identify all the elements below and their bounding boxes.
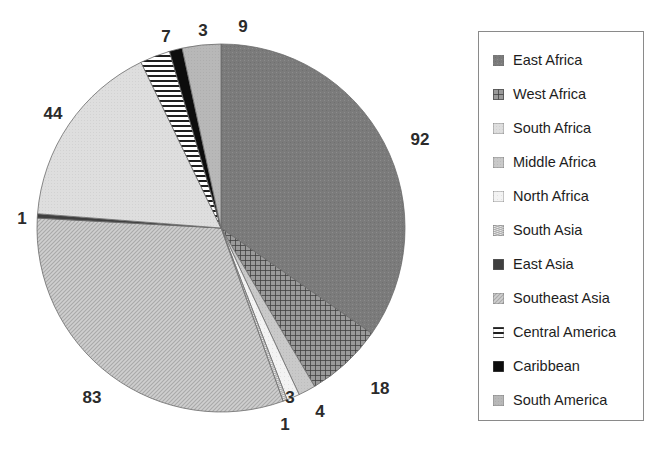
- legend-swatch-solid-black-icon: [493, 361, 504, 372]
- legend-item-label: South Africa: [513, 121, 591, 136]
- legend-item-south-america[interactable]: South America: [479, 383, 643, 417]
- legend-item-north-africa[interactable]: North Africa: [479, 179, 643, 213]
- pie-data-label: 4: [315, 402, 324, 422]
- legend-item-central-america[interactable]: Central America: [479, 315, 643, 349]
- pie-data-label: 3: [285, 388, 294, 408]
- legend-swatch-crosshatch-dark-icon: [493, 89, 504, 100]
- legend-item-label: Central America: [513, 325, 616, 340]
- legend-item-label: East Asia: [513, 257, 573, 272]
- legend-item-south-africa[interactable]: South Africa: [479, 111, 643, 145]
- pie-data-label: 18: [371, 379, 390, 399]
- legend-item-label: South Asia: [513, 223, 582, 238]
- legend-item-southeast-asia[interactable]: Southeast Asia: [479, 281, 643, 315]
- legend-swatch-fine-diagonal-icon: [493, 293, 504, 304]
- pie-data-label: 7: [161, 27, 170, 47]
- pie-data-label: 92: [411, 130, 430, 150]
- legend-item-label: South America: [513, 393, 607, 408]
- legend-swatch-solid-light-gray-icon: [493, 157, 504, 168]
- legend-item-west-africa[interactable]: West Africa: [479, 77, 643, 111]
- pie-data-label: 3: [198, 21, 207, 41]
- legend-swatch-pale-gray-icon: [493, 123, 504, 134]
- legend-swatch-mid-gray-icon: [493, 395, 504, 406]
- pie-chart-figure: 921843183144739 East AfricaWest AfricaSo…: [0, 0, 663, 450]
- legend-item-label: West Africa: [513, 87, 586, 102]
- pie-data-label: 83: [83, 388, 102, 408]
- pie-data-label: 9: [238, 17, 247, 37]
- legend-item-east-africa[interactable]: East Africa: [479, 43, 643, 77]
- chart-legend: East AfricaWest AfricaSouth AfricaMiddle…: [478, 31, 644, 421]
- legend-item-label: Southeast Asia: [513, 291, 610, 306]
- pie-data-label: 1: [17, 209, 26, 229]
- legend-item-label: North Africa: [513, 189, 589, 204]
- legend-item-label: Caribbean: [513, 359, 580, 374]
- legend-swatch-horizontal-lines-icon: [493, 327, 504, 338]
- legend-item-east-asia[interactable]: East Asia: [479, 247, 643, 281]
- pie-data-label: 1: [280, 415, 289, 435]
- legend-item-caribbean[interactable]: Caribbean: [479, 349, 643, 383]
- legend-swatch-solid-near-black-icon: [493, 259, 504, 270]
- pie-data-label: 44: [44, 104, 63, 124]
- legend-item-label: Middle Africa: [513, 155, 596, 170]
- legend-item-middle-africa[interactable]: Middle Africa: [479, 145, 643, 179]
- legend-swatch-very-light-icon: [493, 191, 504, 202]
- legend-swatch-wave-light-icon: [493, 225, 504, 236]
- legend-item-south-asia[interactable]: South Asia: [479, 213, 643, 247]
- pie-slice-group: [37, 44, 405, 412]
- legend-swatch-solid-dark-gray-icon: [493, 55, 504, 66]
- legend-item-label: East Africa: [513, 53, 582, 68]
